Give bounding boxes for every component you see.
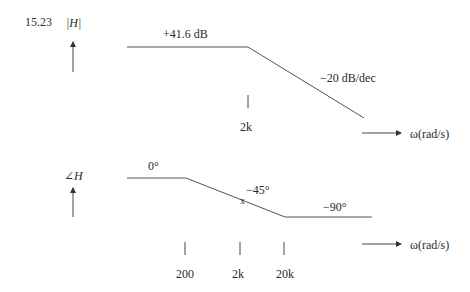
phase-plot: ∠H 0° −45° x −90° 200 2k 20k ω(rad/s) bbox=[64, 159, 449, 281]
phase-mid-marker: x bbox=[240, 195, 245, 206]
phase-tick-label-2k: 2k bbox=[232, 267, 244, 281]
phase-end-label: −90° bbox=[323, 200, 347, 214]
bode-diagram: 15.23 |H| +41.6 dB −20 dB/dec 2k ω(rad/s… bbox=[0, 0, 470, 292]
magnitude-flat-label: +41.6 dB bbox=[163, 27, 208, 41]
magnitude-plot: |H| +41.6 dB −20 dB/dec 2k ω(rad/s) bbox=[66, 16, 449, 141]
phase-mid-label: −45° bbox=[246, 183, 270, 197]
magnitude-x-axis-label: ω(rad/s) bbox=[410, 127, 449, 141]
magnitude-slope-label: −20 dB/dec bbox=[320, 71, 376, 85]
magnitude-axis-label: |H| bbox=[66, 16, 81, 30]
phase-axis-label: ∠H bbox=[64, 169, 84, 183]
phase-tick-label-20k: 20k bbox=[276, 267, 294, 281]
magnitude-tick-label-2k: 2k bbox=[240, 120, 252, 134]
phase-x-axis-label: ω(rad/s) bbox=[410, 238, 449, 252]
problem-number: 15.23 bbox=[25, 15, 52, 29]
phase-start-label: 0° bbox=[148, 159, 159, 173]
phase-tick-label-200: 200 bbox=[176, 267, 194, 281]
